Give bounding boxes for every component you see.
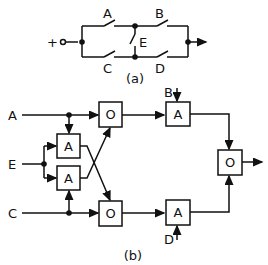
input-a-label: A (8, 108, 17, 123)
switch-d-label: D (155, 61, 165, 76)
gate-label: O (225, 155, 235, 170)
diagram-canvas: + A B E C D (a) A E C B D A A O O A A O … (0, 0, 268, 265)
switch-a-label: A (103, 6, 112, 21)
input-d-label: D (164, 232, 174, 247)
switch-c-label: C (103, 61, 112, 76)
gate-label: O (105, 107, 115, 122)
caption-b: (b) (124, 248, 142, 263)
caption-a: (a) (126, 71, 144, 86)
gate-label: A (64, 171, 73, 186)
gate-label: A (174, 205, 183, 220)
gate-label: A (64, 139, 73, 154)
input-c-label: C (8, 206, 17, 221)
switch-b-label: B (155, 6, 164, 21)
gate-label: A (174, 107, 183, 122)
switch-e-label: E (139, 35, 147, 50)
input-e-label: E (8, 157, 16, 172)
gate-label: O (105, 206, 115, 221)
input-b-label: B (164, 85, 173, 100)
source-plus-label: + (47, 35, 58, 50)
